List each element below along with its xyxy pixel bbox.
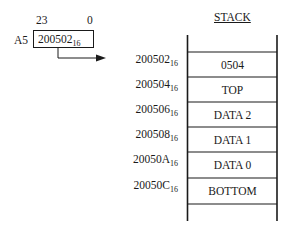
stack-cell: 0504 [188, 60, 277, 72]
stack-cell: BOTTOM [188, 186, 277, 198]
bit-low-label: 0 [87, 15, 93, 27]
stack-cell: TOP [188, 85, 277, 97]
stack-cell: DATA 2 [188, 110, 277, 122]
stack-address: 20050216 [136, 54, 179, 66]
stack-title: STACK [214, 11, 251, 23]
arrow-head-icon [96, 55, 106, 62]
stack-dividers [188, 52, 278, 204]
stack-address: 20050C16 [134, 180, 178, 192]
stack-address: 20050A16 [133, 154, 178, 166]
stack-cell: DATA 1 [188, 135, 277, 147]
register-name: A5 [14, 35, 28, 47]
stack-cell: DATA 0 [188, 160, 277, 172]
bit-high-label: 23 [36, 15, 48, 27]
register-value: 20050216 [38, 34, 81, 46]
pointer-arrow [58, 48, 96, 58]
stack-address: 20050816 [136, 129, 179, 141]
stack-address: 20050416 [136, 79, 179, 91]
stack-address: 20050616 [136, 104, 179, 116]
